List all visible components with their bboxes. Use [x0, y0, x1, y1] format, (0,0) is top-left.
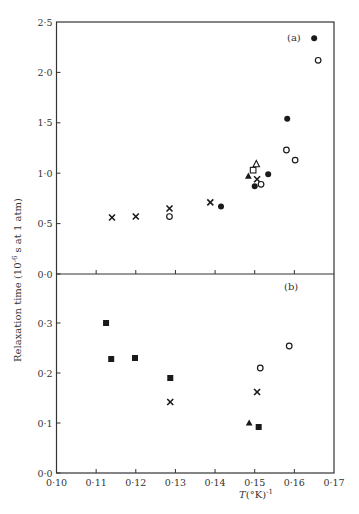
- y-tick-label: 2·0: [37, 67, 52, 78]
- relaxation-time-chart: 0·100·110·120·130·140·150·160·170·00·51·…: [0, 0, 359, 514]
- axis-ticks: 0·100·110·120·130·140·150·160·170·00·51·…: [37, 17, 344, 489]
- series-cross-panel-b: [167, 389, 260, 405]
- data-point: [284, 147, 290, 153]
- y-tick-label: 0·5: [37, 218, 52, 229]
- series-open-circle-panel-a: [167, 58, 321, 220]
- series-open-triangle-panel-a: [253, 161, 259, 167]
- panel-label-a: (a): [287, 32, 301, 43]
- x-axis-title: T(°K)-1: [239, 488, 273, 500]
- data-point: [108, 356, 114, 362]
- y-tick-label: 0·3: [37, 318, 52, 329]
- data-point: [254, 389, 260, 395]
- series-open-square-panel-a: [250, 167, 256, 173]
- data-point: [246, 419, 253, 425]
- data-points: [103, 35, 321, 430]
- data-point: [250, 167, 256, 173]
- x-tick-label: 0·17: [323, 477, 344, 488]
- series-filled-triangle-panel-b: [246, 419, 253, 425]
- data-point: [166, 205, 172, 211]
- data-point: [167, 375, 173, 381]
- y-tick-label: 0·0: [37, 269, 52, 280]
- data-point: [256, 424, 262, 430]
- plot-frame: [57, 22, 335, 473]
- y-tick-label: 0·0: [37, 468, 52, 479]
- series-filled-circle-panel-a: [218, 35, 317, 209]
- data-point: [284, 116, 290, 122]
- series-filled-square-panel-b: [103, 320, 262, 430]
- data-point: [218, 203, 224, 209]
- y-tick-label: 1·0: [37, 168, 52, 179]
- x-tick-label: 0·10: [46, 477, 67, 488]
- data-point: [311, 35, 317, 41]
- data-point: [253, 161, 259, 167]
- data-point: [254, 176, 260, 182]
- data-point: [109, 215, 115, 221]
- data-point: [286, 343, 292, 349]
- data-point: [258, 181, 264, 187]
- data-point: [315, 58, 321, 64]
- data-point: [207, 199, 213, 205]
- x-tick-label: 0·11: [86, 477, 107, 488]
- panel-label-b: (b): [284, 281, 298, 292]
- data-point: [167, 399, 173, 405]
- data-point: [245, 173, 252, 179]
- x-tick-label: 0·16: [284, 477, 305, 488]
- data-point: [252, 183, 258, 189]
- y-axis-title: Relaxation time (10-6 s at 1 atm): [11, 198, 23, 362]
- series-open-circle-panel-b: [257, 343, 292, 371]
- data-point: [133, 214, 139, 220]
- x-tick-label: 0·14: [204, 477, 225, 488]
- x-tick-label: 0·13: [165, 477, 186, 488]
- x-tick-label: 0·15: [244, 477, 265, 488]
- data-point: [167, 214, 173, 220]
- y-tick-label: 0·2: [37, 368, 52, 379]
- data-point: [103, 320, 109, 326]
- y-tick-label: 0·1: [37, 418, 52, 429]
- y-tick-label: 2·5: [37, 17, 52, 28]
- x-tick-label: 0·12: [125, 477, 146, 488]
- data-point: [265, 171, 271, 177]
- series-filled-triangle-panel-a: [245, 173, 252, 179]
- data-point: [257, 365, 263, 371]
- y-tick-label: 1·5: [37, 117, 52, 128]
- data-point: [292, 157, 298, 163]
- data-point: [132, 355, 138, 361]
- series-cross-panel-a: [109, 176, 260, 220]
